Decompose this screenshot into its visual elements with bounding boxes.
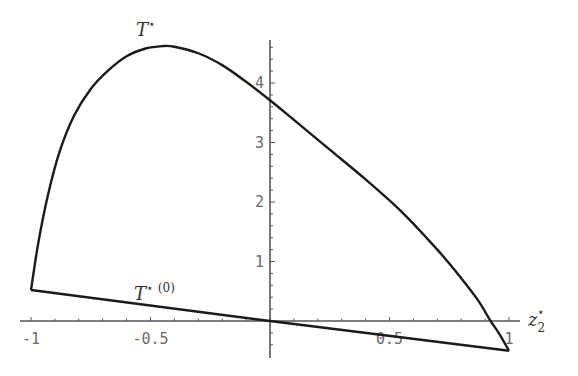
- axes: -1-0.50.511234: [20, 40, 520, 358]
- y-tick-label: 1: [255, 253, 264, 271]
- x-tick-label: -0.5: [132, 330, 168, 348]
- x-axis-label: z2⋆: [527, 305, 545, 335]
- x-tick-label: -1: [22, 330, 40, 348]
- y-tick-label: 2: [255, 193, 264, 211]
- x-tick-label: 0.5: [376, 330, 403, 348]
- curve-label-t-star-0: T⋆ (0): [134, 281, 175, 304]
- curve-label-t-star: T⋆: [136, 17, 156, 40]
- y-tick-label: 3: [255, 134, 264, 152]
- chart: -1-0.50.511234 T⋆ T⋆ (0) z2⋆: [0, 0, 578, 376]
